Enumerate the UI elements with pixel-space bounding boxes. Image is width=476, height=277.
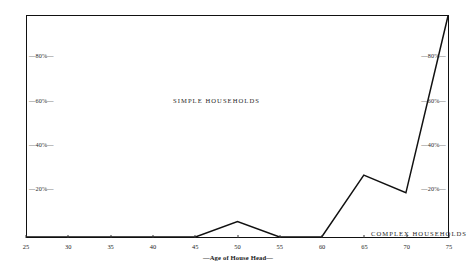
x-tick-mark bbox=[322, 235, 323, 238]
y-tick-label-left-20: —20%— bbox=[29, 185, 54, 192]
y-tick-label-left-40: —40%— bbox=[29, 141, 54, 148]
y-tick-label-right-60: —60%— bbox=[421, 96, 446, 103]
x-tick-mark bbox=[152, 235, 153, 238]
x-tick-mark bbox=[68, 235, 69, 238]
x-tick-label-40: 40 bbox=[150, 243, 156, 250]
y-tick-label-right-20: —20%— bbox=[421, 185, 446, 192]
x-axis-title: —Age of House Head— bbox=[0, 254, 476, 261]
plot-area: —80%— —60%— —40%— —20%— —80%— —60%— —40%… bbox=[26, 15, 449, 238]
x-tick-label-25: 25 bbox=[23, 243, 29, 250]
x-tick-label-70: 70 bbox=[403, 243, 409, 250]
x-tick-label-30: 30 bbox=[65, 243, 71, 250]
x-tick-label-45: 45 bbox=[192, 243, 198, 250]
series-line-complex-households bbox=[27, 16, 448, 237]
chart-figure: —80%— —60%— —40%— —20%— —80%— —60%— —40%… bbox=[0, 0, 476, 277]
x-tick-mark bbox=[449, 235, 450, 238]
y-tick-label-right-40: —40%— bbox=[421, 141, 446, 148]
x-tick-label-65: 65 bbox=[361, 243, 367, 250]
x-tick-label-60: 60 bbox=[319, 243, 325, 250]
y-tick-label-right-80: —80%— bbox=[421, 52, 446, 59]
x-tick-mark bbox=[110, 235, 111, 238]
x-tick-mark bbox=[26, 235, 27, 238]
x-tick-label-35: 35 bbox=[107, 243, 113, 250]
x-tick-mark bbox=[195, 235, 196, 238]
x-tick-label-55: 55 bbox=[277, 243, 283, 250]
annotation-complex-households: COMPLEX HOUSEHOLDS bbox=[371, 230, 467, 237]
x-tick-mark bbox=[237, 235, 238, 238]
x-tick-mark bbox=[364, 235, 365, 238]
y-tick-label-left-60: —60%— bbox=[29, 96, 54, 103]
annotation-simple-households: SIMPLE HOUSEHOLDS bbox=[173, 97, 260, 104]
x-tick-mark bbox=[279, 235, 280, 238]
x-tick-mark bbox=[406, 235, 407, 238]
x-tick-label-50: 50 bbox=[234, 243, 240, 250]
y-tick-label-left-80: —80%— bbox=[29, 52, 54, 59]
x-tick-label-75: 75 bbox=[446, 243, 452, 250]
